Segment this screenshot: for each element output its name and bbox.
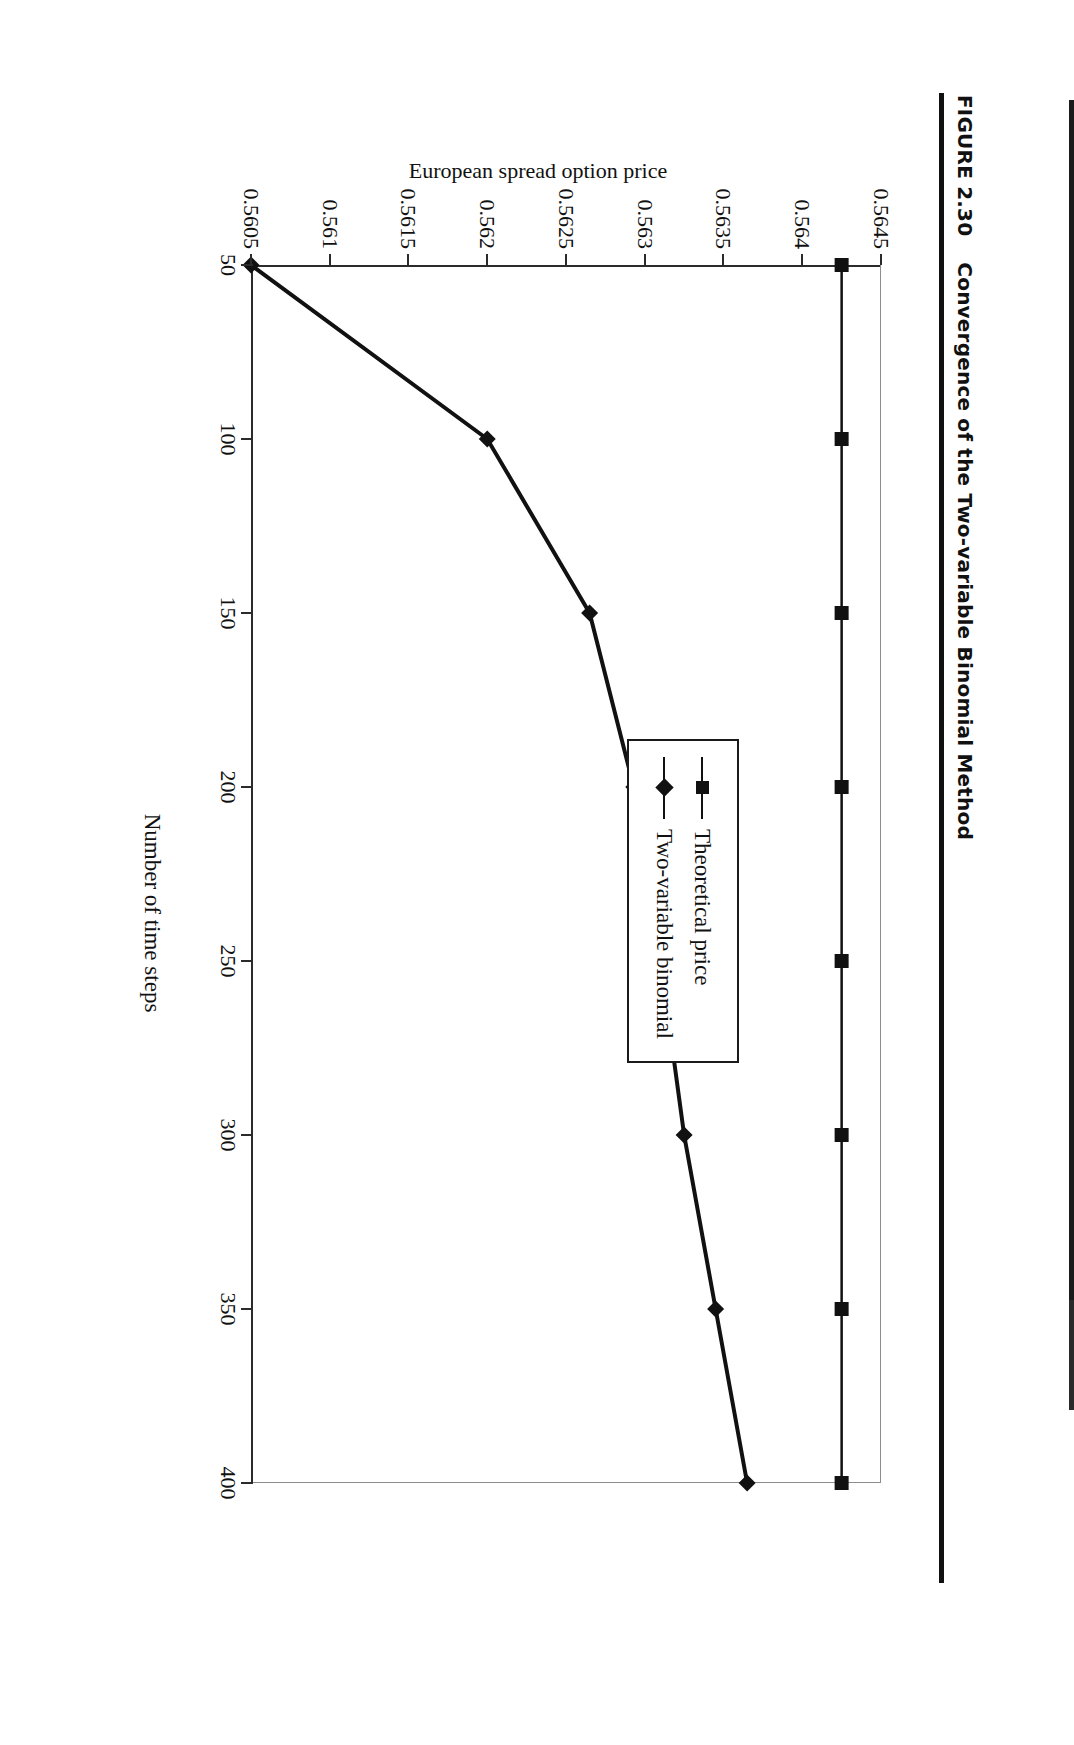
- x-axis-tick-label: 400: [215, 1438, 241, 1528]
- legend-label-two-variable-binomial: Two-variable binomial: [651, 829, 677, 1039]
- square-marker-icon: [835, 1302, 849, 1316]
- x-axis-tick-mark: [241, 1308, 253, 1310]
- y-axis-tick-label: 0.5635: [711, 145, 737, 249]
- y-axis-tick-mark: [801, 254, 803, 265]
- square-marker-icon: [835, 432, 849, 446]
- y-axis-tick-label: 0.564: [789, 145, 815, 249]
- x-axis-tick-label: 250: [215, 916, 241, 1006]
- chart-plot-area: European spread option price Number of t…: [121, 93, 881, 1653]
- diamond-marker-icon: [707, 1300, 724, 1317]
- y-axis-tick-mark: [250, 254, 252, 265]
- square-marker-icon: [835, 1476, 849, 1490]
- figure-title-rule: [939, 93, 944, 1583]
- x-axis-tick-label: 150: [215, 568, 241, 658]
- series-canvas: [251, 265, 881, 1483]
- x-axis-tick-label: 300: [215, 1090, 241, 1180]
- x-axis-tick-mark: [241, 786, 253, 788]
- diamond-marker-icon: [676, 1126, 693, 1143]
- y-axis-tick-mark: [329, 254, 331, 265]
- diamond-marker-icon: [654, 757, 674, 819]
- square-marker-icon: [835, 1128, 849, 1142]
- square-marker-icon: [835, 606, 849, 620]
- square-marker-icon: [835, 780, 849, 794]
- x-axis-tick-mark: [241, 1482, 253, 1484]
- page-edge-artifact-right: [1069, 100, 1074, 1300]
- x-axis-tick-label: 200: [215, 742, 241, 832]
- x-axis-tick-mark: [241, 960, 253, 962]
- square-marker-icon: [835, 954, 849, 968]
- page-edge-artifact-bottom: [1069, 1300, 1074, 1410]
- y-axis-tick-label: 0.561: [317, 145, 343, 249]
- y-axis-tick-label: 0.5625: [553, 145, 579, 249]
- legend-label-theoretical-price: Theoretical price: [689, 829, 715, 985]
- y-axis-tick-labels: 0.56450.5640.56350.5630.56250.5620.56150…: [251, 145, 881, 249]
- y-axis-tick-label: 0.5615: [396, 145, 422, 249]
- x-axis-tick-mark: [241, 1134, 253, 1136]
- y-axis-tick-label: 0.563: [632, 145, 658, 249]
- y-axis-tick-mark: [486, 254, 488, 265]
- legend-item-two-variable-binomial: Two-variable binomial: [645, 757, 683, 1039]
- x-axis-tick-label: 350: [215, 1264, 241, 1354]
- y-axis-tick-label: 0.5605: [238, 145, 264, 249]
- square-marker-icon: [692, 757, 712, 819]
- chart-axes: Theoretical price Two-variable binomial: [251, 265, 881, 1483]
- x-axis-tick-label: 50: [215, 220, 241, 310]
- figure-title-text: Convergence of the Two-variable Binomial…: [953, 262, 977, 840]
- y-axis-tick-mark: [408, 254, 410, 265]
- figure-title: FIGURE 2.30Convergence of the Two-variab…: [953, 93, 977, 1653]
- y-axis-tick-mark: [723, 254, 725, 265]
- x-axis-tick-label: 100: [215, 394, 241, 484]
- diamond-marker-icon: [739, 1474, 756, 1491]
- x-axis-tick-mark: [241, 264, 253, 266]
- square-marker-icon: [835, 258, 849, 272]
- chart-legend: Theoretical price Two-variable binomial: [627, 739, 739, 1063]
- x-axis-tick-mark: [241, 438, 253, 440]
- y-axis-tick-mark: [880, 254, 882, 265]
- figure-header: FIGURE 2.30Convergence of the Two-variab…: [939, 93, 977, 1653]
- figure-block: FIGURE 2.30Convergence of the Two-variab…: [97, 93, 977, 1653]
- y-axis-tick-mark: [565, 254, 567, 265]
- figure-number: FIGURE 2.30: [953, 95, 977, 236]
- y-axis-tick-label: 0.5645: [868, 145, 894, 249]
- y-axis-tick-mark: [644, 254, 646, 265]
- legend-item-theoretical-price: Theoretical price: [683, 757, 721, 1039]
- x-axis-tick-mark: [241, 612, 253, 614]
- x-axis-label: Number of time steps: [139, 343, 165, 1483]
- y-axis-tick-label: 0.562: [474, 145, 500, 249]
